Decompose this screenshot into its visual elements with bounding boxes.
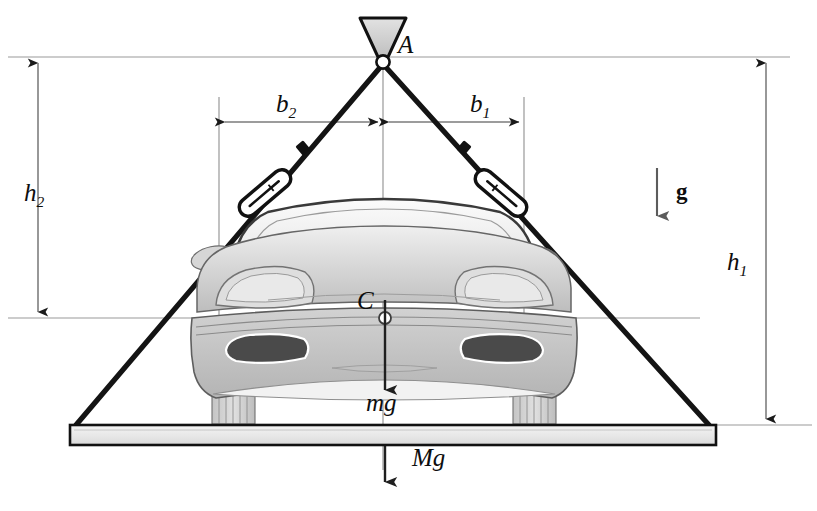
label-b1: b1	[470, 91, 490, 121]
label-gravity-g: g	[676, 180, 688, 203]
air-intake-left	[226, 334, 308, 363]
label-b1-subscript: 1	[483, 104, 491, 121]
label-b2-base: b	[276, 90, 289, 117]
label-b2: b2	[276, 91, 296, 121]
label-h2-subscript: 2	[37, 193, 45, 210]
ground-platform-bar	[70, 425, 716, 445]
label-mg: mg	[366, 390, 397, 415]
apex-pivot-point	[376, 55, 389, 68]
label-h1-subscript: 1	[740, 262, 748, 279]
air-intake-right	[461, 334, 543, 363]
physics-diagram	[0, 0, 817, 511]
cable-knot-right	[456, 140, 471, 156]
label-h2-base: h	[24, 179, 37, 206]
label-b1-base: b	[470, 90, 483, 117]
label-Mg: Mg	[412, 445, 445, 470]
label-b2-subscript: 2	[289, 104, 297, 121]
label-apex-A: A	[398, 32, 413, 57]
label-h1-base: h	[727, 248, 740, 275]
label-h2: h2	[24, 180, 44, 210]
label-h1: h1	[727, 249, 747, 279]
figure-canvas: A C b2 b1 h2 h1 mg Mg g	[0, 0, 817, 511]
label-center-of-mass-C: C	[357, 288, 374, 313]
